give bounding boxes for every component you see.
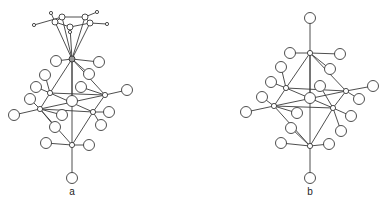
metal-atom: [307, 143, 312, 148]
metal-atom: [37, 106, 42, 111]
chloride-atom: [305, 173, 316, 184]
chloride-atom: [122, 85, 133, 96]
carbon-atom: [52, 19, 58, 25]
chloride-atom: [336, 126, 347, 137]
chloride-atom: [305, 13, 316, 24]
metal-atom: [90, 109, 95, 114]
metal-atom-top: [69, 56, 75, 62]
chloride-atom: [67, 173, 78, 184]
chloride-atom: [241, 107, 252, 118]
central-atom: [305, 93, 316, 104]
hydrogen-atom: [105, 22, 108, 25]
metal-atom: [343, 88, 348, 93]
chloride-atom: [25, 94, 36, 105]
central-atom: [67, 96, 78, 107]
bonds: [14, 12, 373, 178]
chloride-atom: [257, 92, 268, 103]
metal-atom: [102, 92, 107, 97]
carbon-atom: [82, 14, 88, 20]
chloride-atom: [96, 120, 107, 131]
chloride-atom: [346, 111, 357, 122]
panel-label-b: b: [307, 186, 313, 197]
chloride-atom: [292, 108, 303, 119]
hydrogen-atom: [32, 23, 35, 26]
chloride-atom: [286, 123, 297, 134]
metal-atom: [69, 142, 74, 147]
chloride-atom: [41, 138, 52, 149]
carbon-atom: [67, 24, 73, 30]
chloride-atom: [276, 62, 287, 73]
chloride-atom: [57, 110, 68, 121]
chloride-atom: [315, 81, 326, 92]
chloride-atom: [31, 82, 42, 93]
chloride-atom: [9, 110, 20, 121]
metal-atom: [271, 103, 276, 108]
chloride-atom: [276, 138, 287, 149]
panel-label-a: a: [69, 186, 75, 197]
chloride-atom: [51, 56, 62, 67]
chloride-atom: [324, 139, 335, 150]
chloride-atom: [84, 140, 95, 151]
hydrogen-atom: [68, 30, 71, 33]
chloride-atom: [368, 81, 379, 92]
metal-atom: [330, 105, 335, 110]
carbon-atom: [59, 14, 65, 20]
metal-atom: [47, 90, 52, 95]
chloride-atom: [325, 64, 336, 75]
atoms: [9, 10, 379, 183]
metal-atom: [283, 85, 288, 90]
chloride-atom: [285, 48, 296, 59]
chloride-atom: [40, 70, 51, 81]
hydrogen-atom: [49, 11, 52, 14]
chloride-atom: [84, 69, 95, 80]
carbon-atom: [87, 20, 93, 26]
chloride-atom: [266, 77, 277, 88]
chloride-atom: [335, 49, 346, 60]
metal-atom: [307, 50, 312, 55]
chloride-atom: [104, 107, 115, 118]
chloride-atom: [94, 57, 105, 68]
chloride-atom: [50, 122, 61, 133]
chloride-atom: [354, 94, 365, 105]
chloride-atom: [76, 82, 87, 93]
hydrogen-atom: [95, 10, 98, 13]
cluster-diagram: [0, 0, 388, 205]
